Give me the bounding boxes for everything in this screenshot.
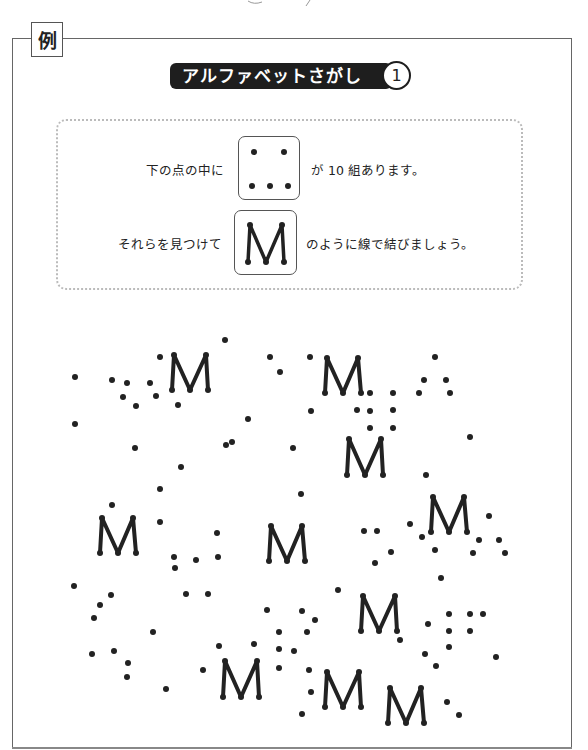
puzzle-dot[interactable] xyxy=(277,369,283,375)
puzzle-dot[interactable] xyxy=(133,403,139,409)
letter-dot[interactable] xyxy=(322,390,328,396)
puzzle-dot[interactable] xyxy=(432,547,438,553)
puzzle-dot[interactable] xyxy=(397,637,403,643)
letter-dot[interactable] xyxy=(97,550,103,556)
puzzle-dot[interactable] xyxy=(421,377,427,383)
puzzle-dot[interactable] xyxy=(264,607,270,613)
letter-dot[interactable] xyxy=(380,472,386,478)
puzzle-dot[interactable] xyxy=(308,408,314,414)
letter-dot[interactable] xyxy=(340,390,346,396)
puzzle-dot[interactable] xyxy=(124,674,130,680)
puzzle-dot[interactable] xyxy=(132,445,138,451)
puzzle-dot[interactable] xyxy=(125,660,131,666)
puzzle-dot[interactable] xyxy=(444,699,450,705)
puzzle-dot[interactable] xyxy=(476,537,482,543)
puzzle-dot[interactable] xyxy=(456,712,462,718)
puzzle-dot[interactable] xyxy=(171,554,177,560)
puzzle-dot[interactable] xyxy=(423,472,429,478)
letter-dot[interactable] xyxy=(464,529,470,535)
letter-dot[interactable] xyxy=(99,515,105,521)
letter-dot[interactable] xyxy=(299,523,305,529)
letter-dot[interactable] xyxy=(256,694,262,700)
puzzle-dot[interactable] xyxy=(335,587,341,593)
letter-dot[interactable] xyxy=(358,704,364,710)
letter-dot[interactable] xyxy=(254,658,260,664)
puzzle-dot[interactable] xyxy=(367,408,373,414)
puzzle-dot[interactable] xyxy=(438,575,444,581)
letter-dot[interactable] xyxy=(418,685,424,691)
puzzle-dot[interactable] xyxy=(163,686,169,692)
puzzle-dot[interactable] xyxy=(229,439,235,445)
letter-dot[interactable] xyxy=(324,669,330,675)
letter-dot[interactable] xyxy=(358,390,364,396)
letter-dot[interactable] xyxy=(430,494,436,500)
puzzle-dot[interactable] xyxy=(153,393,159,399)
puzzle-dot[interactable] xyxy=(124,380,130,386)
puzzle-dot[interactable] xyxy=(308,689,314,695)
puzzle-dot[interactable] xyxy=(493,654,499,660)
letter-dot[interactable] xyxy=(133,550,139,556)
puzzle-dot[interactable] xyxy=(178,464,184,470)
puzzle-dot[interactable] xyxy=(502,550,508,556)
puzzle-dot[interactable] xyxy=(407,521,413,527)
puzzle-dot[interactable] xyxy=(276,629,282,635)
letter-dot[interactable] xyxy=(115,550,121,556)
letter-dot[interactable] xyxy=(344,472,350,478)
letter-dot[interactable] xyxy=(387,685,393,691)
puzzle-dot[interactable] xyxy=(433,663,439,669)
puzzle-dot[interactable] xyxy=(157,486,163,492)
puzzle-dot[interactable] xyxy=(467,611,473,617)
letter-dot[interactable] xyxy=(355,355,361,361)
puzzle-dot[interactable] xyxy=(446,628,452,634)
puzzle-dot[interactable] xyxy=(97,602,103,608)
dot-puzzle-area[interactable] xyxy=(0,0,588,750)
puzzle-dot[interactable] xyxy=(299,711,305,717)
puzzle-dot[interactable] xyxy=(390,425,396,431)
puzzle-dot[interactable] xyxy=(214,530,220,536)
letter-dot[interactable] xyxy=(222,658,228,664)
puzzle-dot[interactable] xyxy=(467,434,473,440)
puzzle-dot[interactable] xyxy=(108,592,114,598)
puzzle-dot[interactable] xyxy=(157,354,163,360)
puzzle-dot[interactable] xyxy=(304,629,310,635)
puzzle-dot[interactable] xyxy=(298,491,304,497)
puzzle-dot[interactable] xyxy=(205,591,211,597)
puzzle-dot[interactable] xyxy=(480,611,486,617)
puzzle-dot[interactable] xyxy=(354,407,360,413)
letter-dot[interactable] xyxy=(461,494,467,500)
letter-dot[interactable] xyxy=(385,720,391,726)
puzzle-dot[interactable] xyxy=(486,513,492,519)
puzzle-dot[interactable] xyxy=(443,377,449,383)
puzzle-dot[interactable] xyxy=(193,557,199,563)
puzzle-dot[interactable] xyxy=(91,615,97,621)
letter-dot[interactable] xyxy=(302,558,308,564)
letter-dot[interactable] xyxy=(360,593,366,599)
puzzle-dot[interactable] xyxy=(89,651,95,657)
puzzle-dot[interactable] xyxy=(374,528,380,534)
puzzle-dot[interactable] xyxy=(245,416,251,422)
puzzle-dot[interactable] xyxy=(120,394,126,400)
letter-dot[interactable] xyxy=(446,529,452,535)
puzzle-dot[interactable] xyxy=(111,648,117,654)
letter-dot[interactable] xyxy=(169,387,175,393)
letter-dot[interactable] xyxy=(238,694,244,700)
puzzle-dot[interactable] xyxy=(109,502,115,508)
puzzle-dot[interactable] xyxy=(312,617,318,623)
puzzle-dot[interactable] xyxy=(372,560,378,566)
puzzle-dot[interactable] xyxy=(467,628,473,634)
letter-dot[interactable] xyxy=(130,515,136,521)
puzzle-dot[interactable] xyxy=(306,667,312,673)
letter-dot[interactable] xyxy=(358,628,364,634)
puzzle-dot[interactable] xyxy=(72,374,78,380)
puzzle-dot[interactable] xyxy=(388,549,394,555)
puzzle-dot[interactable] xyxy=(183,591,189,597)
puzzle-dot[interactable] xyxy=(447,390,453,396)
puzzle-dot[interactable] xyxy=(157,519,163,525)
puzzle-dot[interactable] xyxy=(276,646,282,652)
puzzle-dot[interactable] xyxy=(307,354,313,360)
puzzle-dot[interactable] xyxy=(71,583,77,589)
puzzle-dot[interactable] xyxy=(425,621,431,627)
puzzle-dot[interactable] xyxy=(251,641,257,647)
puzzle-dot[interactable] xyxy=(299,608,305,614)
puzzle-dot[interactable] xyxy=(216,643,222,649)
